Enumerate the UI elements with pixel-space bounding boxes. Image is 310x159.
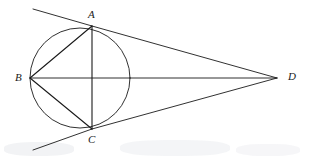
segment-cd (92, 78, 277, 129)
segment-ab (30, 26, 92, 78)
vertex-label-d: D (288, 71, 296, 82)
segment-ad (92, 26, 277, 78)
geometry-figure: A B C D (0, 0, 310, 159)
geometry-canvas (0, 0, 310, 159)
segment-bc (30, 78, 92, 129)
vertex-label-c: C (88, 134, 95, 145)
tangent-at-C-extension (33, 129, 92, 150)
vertex-label-a: A (88, 9, 95, 20)
tangent-at-A-extension (33, 9, 92, 26)
vertex-label-b: B (15, 72, 22, 83)
